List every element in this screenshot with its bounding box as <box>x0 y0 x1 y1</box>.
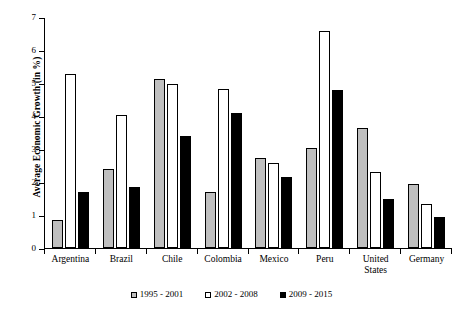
bar <box>268 163 279 248</box>
legend-swatch <box>131 292 137 298</box>
bar <box>306 148 317 248</box>
x-axis-labels: ArgentinaBrazilChileColombiaMexicoPeruUn… <box>45 254 452 276</box>
y-axis-tick-label: 6 <box>32 44 37 56</box>
bar-group <box>45 18 96 248</box>
legend-swatch <box>280 292 286 298</box>
legend-label: 2002 - 2008 <box>214 289 258 300</box>
y-axis-tick: 4 <box>39 117 44 118</box>
bar-group <box>299 18 350 248</box>
y-axis-tick-label: 3 <box>32 143 37 155</box>
bar <box>421 204 432 248</box>
bar <box>231 113 242 248</box>
bar-group <box>350 18 401 248</box>
legend-label: 2009 - 2015 <box>289 289 333 300</box>
bar-group <box>249 18 300 248</box>
y-axis-tick-label: 4 <box>32 110 37 122</box>
bar-group <box>198 18 249 248</box>
x-axis-label: Argentina <box>45 254 96 276</box>
bar-group <box>401 18 452 248</box>
bar <box>167 84 178 248</box>
bar <box>116 115 127 248</box>
bar <box>65 74 76 248</box>
legend-item[interactable]: 2002 - 2008 <box>205 289 258 300</box>
bar <box>434 217 445 248</box>
y-axis-tick: 2 <box>39 183 44 184</box>
bar-group <box>147 18 198 248</box>
legend-swatch <box>205 292 211 298</box>
bar <box>383 199 394 248</box>
y-axis-tick-label: 2 <box>32 176 37 188</box>
bar <box>370 172 381 248</box>
legend-item[interactable]: 2009 - 2015 <box>280 289 333 300</box>
bar-group <box>96 18 147 248</box>
x-axis-label: Mexico <box>249 254 300 276</box>
x-axis-label: United States <box>350 254 401 276</box>
y-axis-tick: 5 <box>39 84 44 85</box>
y-axis-tick-label: 5 <box>32 77 37 89</box>
bar <box>408 184 419 248</box>
bar <box>103 169 114 248</box>
bar <box>319 31 330 248</box>
bar <box>129 187 140 248</box>
x-axis-label: Colombia <box>198 254 249 276</box>
plot-area: 01234567 <box>44 18 452 249</box>
bar <box>281 177 292 248</box>
y-axis-tick-label: 1 <box>32 209 37 221</box>
x-axis-label: Chile <box>147 254 198 276</box>
bar <box>218 89 229 248</box>
x-axis-label: Brazil <box>96 254 147 276</box>
bar <box>332 90 343 248</box>
bar <box>78 192 89 248</box>
y-axis-tick-label: 7 <box>32 11 37 23</box>
bar <box>52 220 63 248</box>
x-axis-label: Peru <box>299 254 350 276</box>
bar-groups <box>45 18 452 248</box>
bar-chart: Average Economic Growth (in %) 01234567 … <box>0 0 463 313</box>
y-axis-tick-label: 0 <box>32 242 37 254</box>
y-axis-tick: 6 <box>39 51 44 52</box>
bar <box>180 136 191 248</box>
legend-label: 1995 - 2001 <box>140 289 184 300</box>
bar <box>154 79 165 248</box>
bar <box>255 158 266 248</box>
y-axis-tick: 1 <box>39 216 44 217</box>
y-axis-tick: 7 <box>39 18 44 19</box>
x-axis-label: Germany <box>401 254 452 276</box>
chart-legend: 1995 - 20012002 - 20082009 - 2015 <box>0 289 463 300</box>
bar <box>357 128 368 248</box>
y-axis-tick: 3 <box>39 150 44 151</box>
legend-item[interactable]: 1995 - 2001 <box>131 289 184 300</box>
bar <box>205 192 216 248</box>
